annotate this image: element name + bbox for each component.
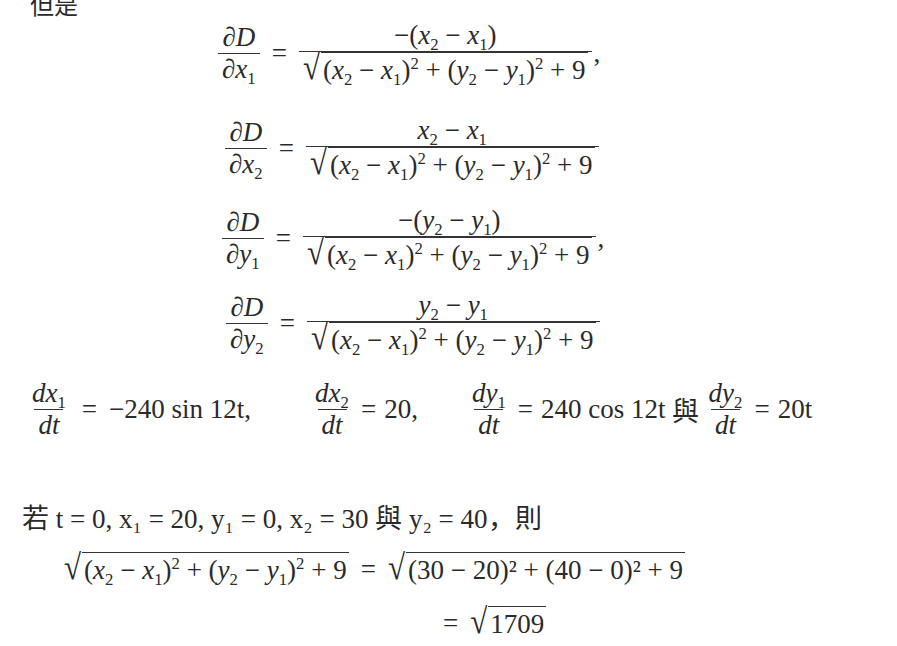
dy2dt-value: 20t bbox=[778, 394, 813, 425]
connector-text: 與 bbox=[672, 390, 699, 429]
evaluation-substituted: (30 − 20)² + (40 − 0)² + 9 bbox=[406, 552, 685, 586]
dx1dt-value: −240 sin 12t, bbox=[109, 394, 251, 425]
condition-line: 若 t = 0, x₁ = 20, y₁ = 0, x₂ = 30 與 y₂ =… bbox=[22, 497, 542, 536]
initial-values: t = 0, x₁ = 20, y₁ = 0, x₂ = 30 bbox=[56, 504, 369, 534]
header-fragment: 但是 bbox=[30, 0, 78, 21]
evaluation-result: 1709 bbox=[488, 606, 546, 640]
partial-dy1-equation: ∂D ∂y1 = −(y2 − y1) √(x2 − x1)2 + (y2 − … bbox=[222, 205, 604, 271]
dx2dt-value: 20, bbox=[384, 394, 418, 425]
lhs-fraction: ∂D ∂x1 bbox=[218, 22, 260, 85]
partial-dx1-equation: ∂D ∂x1 = −(x2 − x1) √(x2 − x1)2 + (y2 − … bbox=[218, 20, 600, 86]
dy1dt-value: 240 cos 12t bbox=[541, 394, 666, 425]
time-derivatives-line: dx1dt = −240 sin 12t, dx2dt = 20, dy1dt … bbox=[28, 378, 812, 441]
evaluation-line-2: = √1709 bbox=[443, 606, 546, 640]
evaluation-line-1: √(x2 − x1)2 + (y2 − y1)2 + 9 = √(30 − 20… bbox=[64, 552, 685, 586]
partial-dy2-equation: ∂D ∂y2 = y2 − y1 √(x2 − x1)2 + (y2 − y1)… bbox=[226, 290, 600, 356]
rhs-fraction: −(x2 − x1) √(x2 − x1)2 + (y2 − y1)2 + 9 bbox=[299, 20, 592, 86]
partial-dx2-equation: ∂D ∂x2 = x2 − x1 √(x2 − x1)2 + (y2 − y1)… bbox=[225, 115, 599, 181]
